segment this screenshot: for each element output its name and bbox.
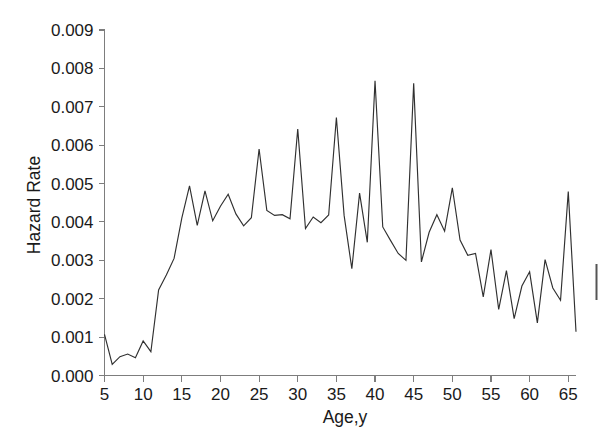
x-tick-label: 30: [288, 385, 307, 404]
y-axis-ticks: 0.0000.0010.0020.0030.0040.0050.0060.007…: [51, 21, 105, 386]
y-tick-label: 0.001: [51, 328, 94, 347]
x-tick-label: 35: [327, 385, 346, 404]
y-tick-label: 0.005: [51, 175, 94, 194]
x-tick-label: 55: [482, 385, 501, 404]
x-tick-label: 45: [404, 385, 423, 404]
x-tick-label: 10: [134, 385, 153, 404]
x-axis-ticks: 5101520253035404550556065: [100, 376, 578, 404]
y-axis-title: Hazard Rate: [24, 156, 44, 254]
x-axis-title: Age,y: [323, 407, 368, 427]
x-tick-label: 50: [443, 385, 462, 404]
y-tick-label: 0.008: [51, 59, 94, 78]
y-tick-label: 0.006: [51, 136, 94, 155]
y-tick-label: 0.003: [51, 251, 94, 270]
hazard-rate-series-line: [105, 81, 577, 365]
x-tick-label: 60: [520, 385, 539, 404]
x-tick-label: 25: [250, 385, 269, 404]
y-tick-label: 0.004: [51, 213, 94, 232]
y-tick-label: 0.007: [51, 98, 94, 117]
x-tick-label: 65: [559, 385, 578, 404]
x-tick-label: 5: [100, 385, 109, 404]
axes-group: [105, 30, 577, 376]
x-tick-label: 40: [366, 385, 385, 404]
y-tick-label: 0.009: [51, 21, 94, 40]
hazard-rate-figure: 0.0000.0010.0020.0030.0040.0050.0060.007…: [0, 0, 602, 440]
y-tick-label: 0.002: [51, 290, 94, 309]
y-tick-label: 0.000: [51, 367, 94, 386]
x-tick-label: 20: [211, 385, 230, 404]
hazard-rate-chart: 0.0000.0010.0020.0030.0040.0050.0060.007…: [0, 0, 602, 440]
x-tick-label: 15: [172, 385, 191, 404]
